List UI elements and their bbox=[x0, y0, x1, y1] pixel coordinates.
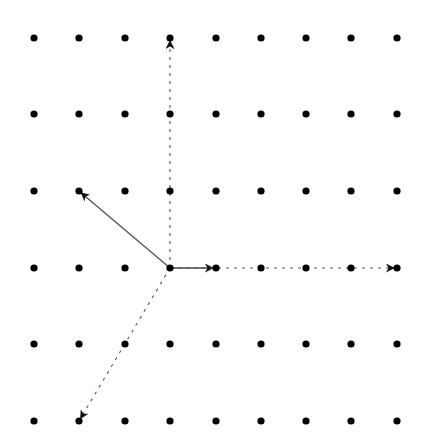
lattice-point bbox=[302, 34, 309, 41]
lattice-point bbox=[212, 340, 219, 347]
lattice-point bbox=[347, 340, 354, 347]
lattice-point bbox=[302, 264, 309, 271]
lattice-point bbox=[393, 187, 400, 194]
lattice-point bbox=[212, 110, 219, 117]
lattice-point bbox=[166, 187, 173, 194]
lattice-point bbox=[30, 34, 37, 41]
lattice-point bbox=[347, 110, 354, 117]
lattice-point bbox=[121, 417, 128, 424]
lattice-point bbox=[302, 187, 309, 194]
lattice-point bbox=[75, 34, 82, 41]
lattice-point bbox=[166, 340, 173, 347]
lattice-point bbox=[75, 264, 82, 271]
lattice-point bbox=[212, 187, 219, 194]
lattice-point bbox=[257, 417, 264, 424]
vectors-layer bbox=[81, 41, 394, 418]
lattice-point bbox=[212, 34, 219, 41]
lattice-canvas bbox=[0, 0, 425, 447]
basis-vector-up-left bbox=[81, 193, 170, 268]
lattice-point bbox=[166, 34, 173, 41]
lattice-point bbox=[75, 187, 82, 194]
lattice-point bbox=[257, 110, 264, 117]
lattice-point bbox=[121, 34, 128, 41]
lattice-point bbox=[302, 417, 309, 424]
lattice-point bbox=[347, 417, 354, 424]
lattice-point bbox=[393, 110, 400, 117]
lattice-point bbox=[302, 340, 309, 347]
lattice-point bbox=[347, 264, 354, 271]
lattice-point bbox=[393, 417, 400, 424]
lattice-point bbox=[257, 34, 264, 41]
lattice-point bbox=[302, 110, 309, 117]
lattice-point bbox=[257, 340, 264, 347]
lattice-point bbox=[212, 417, 219, 424]
lattice-point bbox=[257, 187, 264, 194]
lattice-point bbox=[30, 340, 37, 347]
lattice-point bbox=[166, 417, 173, 424]
lattice-point bbox=[30, 187, 37, 194]
lattice-point bbox=[121, 340, 128, 347]
lattice-point bbox=[393, 34, 400, 41]
lattice-point bbox=[166, 110, 173, 117]
lattice-point bbox=[75, 417, 82, 424]
lattice-point bbox=[347, 187, 354, 194]
lattice-point bbox=[121, 264, 128, 271]
lattice-point bbox=[121, 110, 128, 117]
lattice-point bbox=[393, 340, 400, 347]
lattice-point bbox=[30, 110, 37, 117]
lattice-point bbox=[30, 264, 37, 271]
lattice-point bbox=[212, 264, 219, 271]
lattice-point bbox=[166, 264, 173, 271]
lattice-point bbox=[30, 417, 37, 424]
lattice-point bbox=[75, 340, 82, 347]
lattice-point bbox=[393, 264, 400, 271]
lattice-point bbox=[75, 110, 82, 117]
lattice-point bbox=[257, 264, 264, 271]
lattice-point bbox=[347, 34, 354, 41]
lattice-diagram bbox=[0, 0, 425, 447]
lattice-points-layer bbox=[30, 34, 400, 424]
lattice-point bbox=[121, 187, 128, 194]
